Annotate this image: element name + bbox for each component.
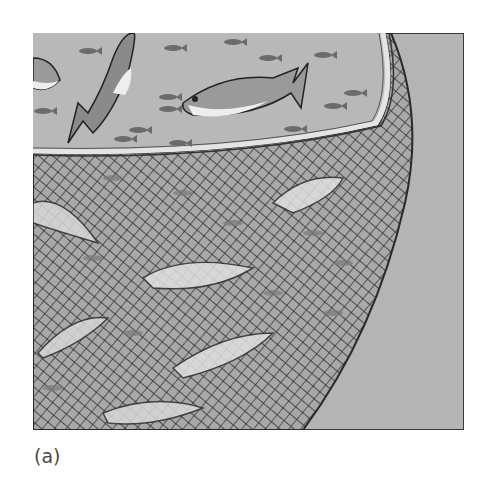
- net-pen-drawing: [33, 33, 464, 430]
- figure-label: (a): [34, 445, 60, 467]
- net-pen-illustration: [33, 33, 464, 430]
